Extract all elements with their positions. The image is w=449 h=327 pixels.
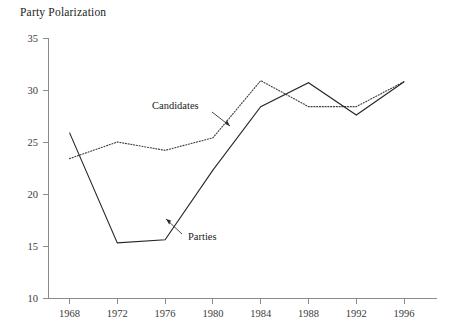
y-tick-label-20: 20 [28, 189, 39, 200]
x-axis: 1968 1972 1976 1980 1984 1988 1992 1996 [49, 299, 438, 320]
annotation-parties: Parties [166, 219, 217, 242]
y-axis: 35 30 25 20 15 10 [28, 33, 49, 304]
y-tick-label-25: 25 [28, 137, 39, 148]
y-tick-label-10: 10 [28, 293, 39, 304]
y-tick-label-35: 35 [28, 33, 39, 44]
party-polarization-line-chart: 35 30 25 20 15 10 1968 1972 1976 1980 19… [0, 0, 449, 327]
annotation-arrowhead-parties [166, 219, 171, 225]
x-tick-label-1988: 1988 [298, 308, 319, 319]
x-tick-label-1980: 1980 [202, 308, 223, 319]
x-tick-label-1992: 1992 [346, 308, 367, 319]
x-tick-label-1972: 1972 [107, 308, 128, 319]
series-line-parties [70, 82, 405, 243]
x-tick-label-1996: 1996 [394, 308, 415, 319]
annotation-candidates: Candidates [152, 100, 230, 126]
x-tick-label-1976: 1976 [155, 308, 176, 319]
y-tick-label-15: 15 [28, 241, 39, 252]
annotation-label-candidates: Candidates [152, 100, 199, 111]
series-line-candidates [70, 81, 405, 159]
y-tick-label-30: 30 [28, 85, 39, 96]
x-tick-label-1984: 1984 [250, 308, 272, 319]
data-series-group [70, 81, 405, 243]
annotation-label-parties: Parties [188, 231, 217, 242]
x-tick-label-1968: 1968 [59, 308, 80, 319]
chart-figure: Party Polarization 35 30 25 20 15 10 [0, 0, 449, 327]
